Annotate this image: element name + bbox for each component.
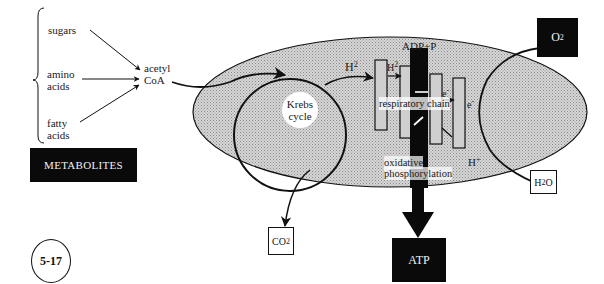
diagram-svg (0, 0, 604, 284)
label-sugars: sugars (48, 24, 76, 37)
label-coa: CoA (144, 74, 165, 87)
arrow-sugars-acetyl (90, 30, 140, 70)
label-amino-2: acids (47, 80, 70, 93)
water-box: H2O (530, 170, 557, 194)
metabolites-brace (33, 8, 44, 143)
chain-complex-4 (453, 78, 465, 148)
chain-complex-1 (375, 60, 387, 130)
co2-box: CO2 (268, 227, 294, 255)
label-adp-p: ADP+P (402, 40, 436, 53)
label-respiratory-chain: respiratory chain (379, 97, 450, 110)
metabolites-title: METABOLITES (44, 159, 123, 171)
label-cycle: cycle (285, 110, 315, 123)
label-fatty-2: acids (47, 129, 70, 142)
label-phosphorylation: phosphorylation (384, 167, 452, 180)
arrow-fatty-acetyl (80, 85, 139, 122)
label-h2-inner: H2 (387, 58, 398, 74)
diagram-stage: sugars amino acids fatty acids acetyl Co… (0, 0, 604, 284)
label-electron-2: e- (467, 95, 474, 111)
figure-number-badge: 5-17 (31, 239, 71, 283)
atp-box: ATP (392, 238, 446, 282)
metabolites-box: METABOLITES (30, 148, 137, 182)
label-h-plus: H+ (468, 153, 480, 169)
atp-arrow-head (402, 212, 434, 238)
oxygen-box: O2 (537, 18, 578, 57)
label-h2-left: H2 (345, 58, 358, 74)
